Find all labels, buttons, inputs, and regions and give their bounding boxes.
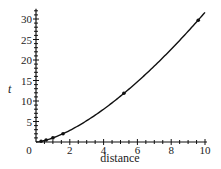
y-tick-label: 5 <box>27 116 33 128</box>
x-tick-label: 8 <box>168 144 174 156</box>
data-point-marker <box>51 136 55 140</box>
data-point-marker <box>196 18 200 22</box>
data-point-marker <box>39 139 43 143</box>
data-point-marker <box>61 132 65 136</box>
data-point-marker <box>44 138 48 142</box>
y-tick-label: 25 <box>21 34 33 46</box>
y-tick-label: 10 <box>21 95 33 107</box>
data-curve <box>36 12 205 142</box>
x-tick-label: 10 <box>200 144 212 156</box>
data-point-marker <box>122 91 126 95</box>
x-axis-label: distance <box>100 151 139 165</box>
x-tick-label: 0 <box>26 144 32 156</box>
y-tick-label: 30 <box>21 13 33 25</box>
y-axis: 51015202530 <box>21 9 39 142</box>
y-axis-label: t <box>8 82 12 96</box>
x-tick-label: 2 <box>67 144 73 156</box>
y-tick-label: 20 <box>21 54 33 66</box>
chart: 51015202530 0246810 t distance <box>0 0 221 169</box>
y-tick-label: 15 <box>21 75 33 87</box>
data-markers <box>39 18 200 143</box>
